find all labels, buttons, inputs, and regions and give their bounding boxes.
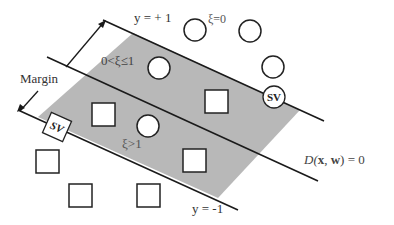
- y-plus-one-label: y = + 1: [134, 11, 171, 24]
- decision-prefix: D(: [304, 152, 318, 167]
- decision-suffix: ) = 0: [340, 152, 365, 167]
- circle-point: [148, 57, 170, 79]
- decision-function-label: D(x, w) = 0: [304, 153, 365, 166]
- svm-margin-diagram: SV SV Margin y = + 1 ξ=0 0<ξ≤1 ξ>1 y = -…: [0, 0, 394, 225]
- y-minus-one-label: y = -1: [192, 202, 223, 215]
- margin-arrow-shaft: [66, 22, 104, 67]
- xi-between-label: 0<ξ≤1: [101, 54, 134, 67]
- sv-circle-label: SV: [267, 91, 281, 103]
- square-point: [92, 103, 115, 126]
- square-point: [137, 184, 160, 207]
- square-point: [36, 150, 59, 173]
- decision-w: w: [331, 152, 340, 167]
- circle-point: [262, 56, 284, 78]
- margin-label: Margin: [20, 72, 58, 85]
- xi-zero-label: ξ=0: [208, 13, 226, 25]
- square-point: [69, 184, 92, 207]
- support-vector-circle: SV: [263, 86, 285, 108]
- square-point: [183, 149, 206, 172]
- circle-point: [184, 19, 206, 41]
- square-point: [205, 90, 228, 113]
- circle-point: [137, 115, 159, 137]
- margin-band: [38, 33, 300, 198]
- diagram-canvas: SV SV: [0, 0, 394, 225]
- xi-greater-label: ξ>1: [122, 137, 142, 150]
- circle-point: [239, 20, 261, 42]
